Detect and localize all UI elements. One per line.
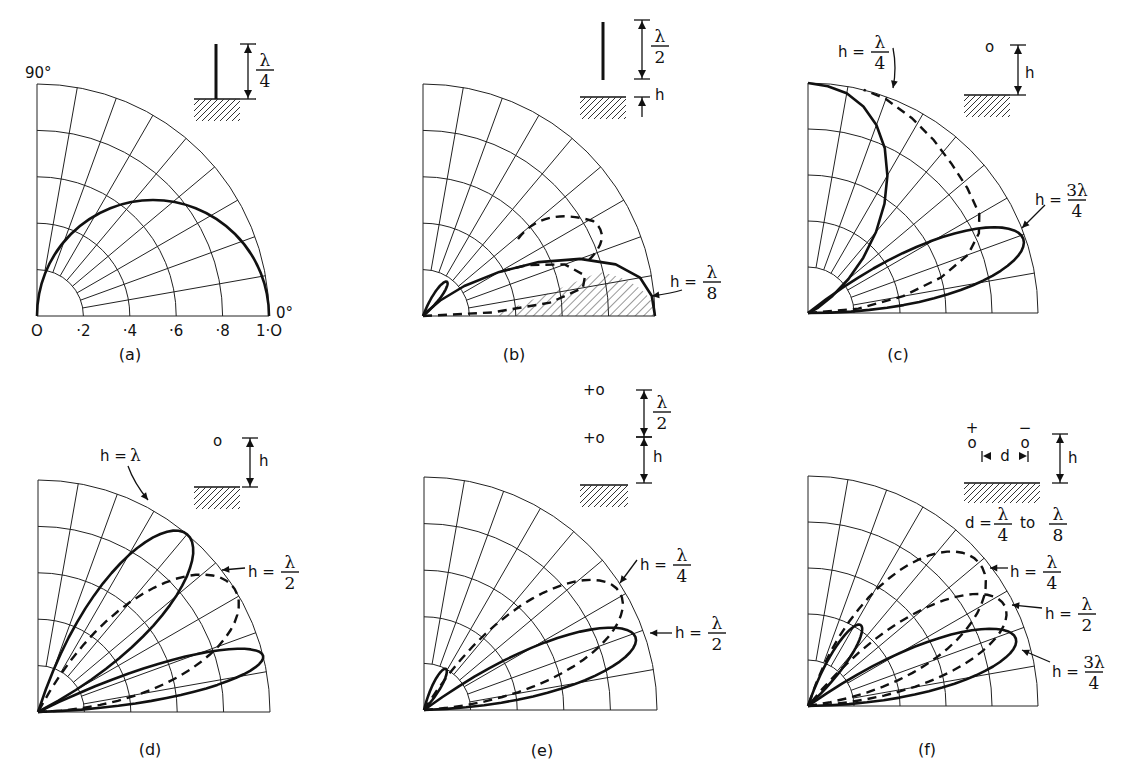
- svg-text:λ: λ: [1053, 504, 1064, 524]
- svg-text:4: 4: [998, 525, 1009, 545]
- svg-text:λ: λ: [875, 32, 886, 52]
- caption-e: (e): [531, 741, 553, 760]
- svg-text:3λ: 3λ: [1083, 652, 1105, 672]
- svg-text:d: d: [1000, 447, 1010, 465]
- svg-text:3λ: 3λ: [1066, 180, 1088, 200]
- svg-text:h =: h =: [1045, 605, 1072, 623]
- caption-c: (c): [887, 345, 908, 364]
- svg-text:h: h: [653, 448, 663, 466]
- svg-text:o: o: [985, 38, 994, 56]
- svg-text:λ: λ: [707, 262, 718, 282]
- panel-a: 90°0°O·2·4·6·81·O(a)λ4: [25, 44, 293, 364]
- svg-text:h =: h =: [1035, 191, 1062, 209]
- radial-tick-label: O: [31, 322, 43, 340]
- svg-text:h =: h =: [640, 556, 667, 574]
- caption-b: (b): [503, 345, 526, 364]
- svg-text:2: 2: [712, 634, 723, 654]
- svg-text:8: 8: [1053, 525, 1064, 545]
- svg-text:4: 4: [1047, 573, 1058, 593]
- svg-text:λ: λ: [677, 545, 688, 565]
- svg-text:o: o: [213, 432, 222, 450]
- svg-text:λ: λ: [1082, 594, 1093, 614]
- svg-text:4: 4: [1072, 201, 1083, 221]
- svg-text:h =: h =: [248, 563, 275, 581]
- angle-90-label: 90°: [25, 64, 52, 82]
- svg-text:4: 4: [875, 53, 886, 73]
- panel-c: (c)h =λ4h =3λ4oh: [808, 32, 1088, 364]
- svg-text:4: 4: [1089, 673, 1100, 693]
- svg-text:+o: +o: [583, 429, 605, 447]
- caption-d: (d): [139, 740, 162, 759]
- svg-text:h =: h =: [1052, 663, 1079, 681]
- svg-text:4: 4: [260, 71, 271, 91]
- svg-text:to: to: [1020, 514, 1035, 532]
- svg-text:λ: λ: [657, 392, 668, 412]
- svg-text:h =: h =: [670, 273, 697, 291]
- panel-d: (d)h =λh =λ2oh: [38, 432, 299, 759]
- svg-text:8: 8: [707, 283, 718, 303]
- svg-text:h: h: [1068, 449, 1078, 467]
- svg-text:h =: h =: [100, 447, 127, 465]
- svg-text:λ: λ: [285, 552, 296, 572]
- svg-text:2: 2: [285, 573, 296, 593]
- svg-text:h =: h =: [1010, 563, 1037, 581]
- panel-b: (b)h =λ8λ2h: [423, 20, 721, 364]
- svg-text:λ: λ: [712, 613, 723, 633]
- svg-text:λ: λ: [655, 26, 666, 46]
- svg-text:λ: λ: [130, 445, 141, 465]
- svg-text:λ: λ: [998, 504, 1009, 524]
- svg-text:h: h: [1025, 64, 1035, 82]
- svg-text:d =: d =: [965, 514, 992, 532]
- svg-text:2: 2: [655, 47, 666, 67]
- panel-e: (e)h =λ4h =λ2+o+oλ2h: [424, 381, 726, 760]
- radial-tick-label: ·2: [76, 322, 90, 340]
- caption-f: (f): [918, 740, 936, 759]
- svg-text:h =: h =: [838, 43, 865, 61]
- radiation-pattern-figure: 90°0°O·2·4·6·81·O(a)λ4(b)h =λ8λ2h(c)h =λ…: [0, 0, 1132, 768]
- svg-text:λ: λ: [1047, 552, 1058, 572]
- radial-tick-label: 1·O: [256, 322, 282, 340]
- radial-tick-label: ·4: [123, 322, 137, 340]
- panel-f: (f)h =λ4h =λ2h =3λ4+o−odhd =λ4toλ8: [808, 419, 1105, 759]
- svg-text:λ: λ: [260, 50, 271, 70]
- svg-text:o: o: [1020, 434, 1029, 452]
- svg-text:h =: h =: [675, 624, 702, 642]
- svg-text:+o: +o: [583, 381, 605, 399]
- svg-text:4: 4: [677, 566, 688, 586]
- angle-0-label: 0°: [276, 304, 293, 322]
- svg-text:h: h: [259, 452, 269, 470]
- svg-text:h: h: [655, 86, 665, 104]
- svg-text:2: 2: [657, 413, 668, 433]
- svg-text:o: o: [967, 434, 976, 452]
- radial-tick-label: ·6: [169, 322, 183, 340]
- caption-a: (a): [119, 345, 141, 364]
- radial-tick-label: ·8: [215, 322, 229, 340]
- svg-text:2: 2: [1082, 615, 1093, 635]
